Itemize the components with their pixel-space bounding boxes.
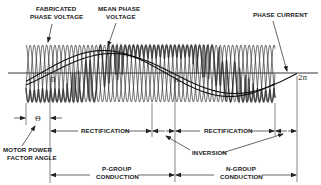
- rectification-label-2: RECTIFICATION: [204, 127, 253, 134]
- n-group-label: N-GROUP: [226, 165, 256, 172]
- phase-voltage-label: PHASE VOLTAGE: [30, 13, 83, 20]
- rectification-label-1: RECTIFICATION: [81, 127, 130, 134]
- two-pi-mark: 2π: [298, 74, 307, 82]
- cycloconverter-diagram: 0 π 2π Θ MOTOR POWER FACTOR ANGLE RECTIF…: [0, 0, 321, 185]
- zero-mark: 0: [51, 76, 55, 84]
- fabricated-pointer: [48, 24, 52, 42]
- motor-angle-pointer: [22, 126, 35, 146]
- inversion-label: INVERSION: [192, 149, 227, 156]
- phase-current-label: PHASE CURRENT: [253, 11, 308, 18]
- mean-phase-label: MEAN PHASE: [98, 5, 140, 12]
- mean-voltage-label: VOLTAGE: [106, 13, 136, 20]
- motor-power-label: MOTOR POWER: [3, 146, 53, 153]
- n-group-conduction-label: CONDUCTION: [220, 173, 263, 180]
- factor-angle-label-text: FACTOR ANGLE: [7, 154, 57, 161]
- mean-pointer: [108, 23, 116, 46]
- p-group-conduction-label: CONDUCTION: [96, 173, 139, 180]
- p-group-label: P-GROUP: [102, 165, 132, 172]
- fabricated-label: FABRICATED: [36, 5, 77, 12]
- phase-current-pointer: [273, 21, 287, 71]
- theta-symbol: Θ: [35, 115, 41, 123]
